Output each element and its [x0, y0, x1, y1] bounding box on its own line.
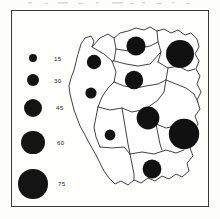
- legend-symbol-45: [24, 99, 42, 117]
- map-symbol-north-east: [166, 40, 194, 68]
- map-symbol-west-central: [125, 71, 143, 89]
- map-symbol-south-west: [105, 130, 116, 141]
- map-symbol-south: [143, 160, 162, 179]
- map-symbol-west: [85, 87, 96, 98]
- scan-artifact-marks: [0, 0, 220, 9]
- legend-symbol-60: [21, 131, 45, 155]
- map-canvas: [58, 14, 206, 204]
- map-symbol-centre: [137, 107, 160, 130]
- map-symbol-north-west: [87, 55, 101, 69]
- figure-root: 15 30 45 60 75: [0, 0, 220, 219]
- legend-symbol-30: [27, 74, 39, 86]
- legend-symbol-75: [18, 169, 48, 199]
- map-symbol-south-east: [169, 119, 199, 149]
- map-symbol-north-central: [126, 36, 145, 55]
- legend-symbol-15: [29, 54, 37, 62]
